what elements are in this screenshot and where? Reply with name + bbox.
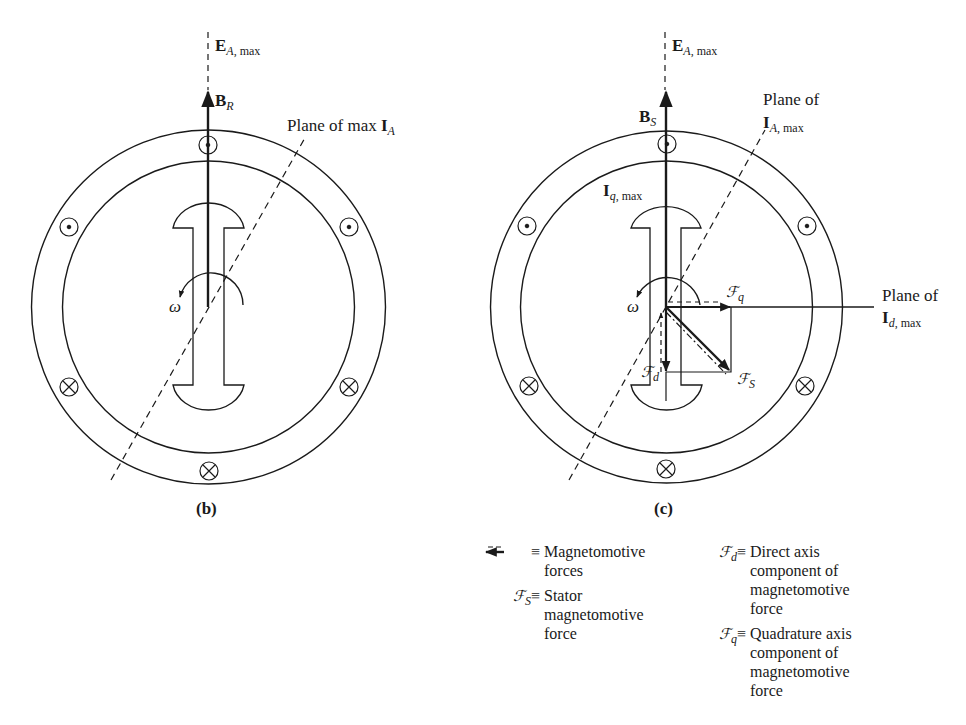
legend-text: magnetomotive xyxy=(750,580,850,599)
legend-text: component of xyxy=(750,643,852,662)
plane-max-ia-label-b: Plane of max IA xyxy=(287,117,395,140)
legend-text: Stator xyxy=(544,586,644,605)
fd-symbol: ℱ xyxy=(719,543,731,561)
conductor-cross-right-c xyxy=(796,377,814,395)
legend-text: Quadrature axis xyxy=(750,624,852,643)
conductor-cross-left-b xyxy=(60,378,78,396)
diagram-b xyxy=(32,32,386,484)
legend-left: ≡ Magnetomotive forces ℱS≡ Stator magnet… xyxy=(486,542,686,649)
fs-dashed xyxy=(666,312,726,374)
ea-max-label-b: EA, max xyxy=(215,37,260,60)
fs-label: ℱS xyxy=(737,370,755,393)
plane-id-max-label-c: Plane of Id, max xyxy=(882,285,938,334)
conductor-cross-bottom-b xyxy=(200,462,218,480)
fq-label: ℱq xyxy=(726,283,744,306)
legend-text: magnetomotive xyxy=(750,662,852,681)
iq-max-label: Iq, max xyxy=(603,182,642,205)
legend-text: Direct axis xyxy=(750,542,850,561)
fs-arrow xyxy=(666,307,729,370)
legend-item-fq: ℱq≡ Quadrature axis component of magneto… xyxy=(692,624,952,700)
fq-symbol: ℱ xyxy=(719,625,731,643)
ea-max-label-c: EA, max xyxy=(672,37,717,60)
legend-text: Magnetomotive xyxy=(544,542,645,561)
omega-arc-b xyxy=(180,273,243,305)
omega-label-b: ω xyxy=(169,298,181,316)
legend-text: magnetomotive xyxy=(544,605,644,624)
plane-ia-max-label-c: Plane of IA, max xyxy=(763,88,819,140)
fs-symbol: ℱ xyxy=(513,587,525,605)
legend-item-fs: ℱS≡ Stator magnetomotive force xyxy=(486,586,686,643)
legend-text: component of xyxy=(750,561,850,580)
legend-text: force xyxy=(750,599,850,618)
conductor-cross-left-c xyxy=(520,377,538,395)
omega-arc-c xyxy=(637,278,700,305)
br-label: BR xyxy=(215,92,234,115)
omega-label-c: ω xyxy=(627,298,639,316)
fd-label: ℱd xyxy=(641,363,659,386)
legend-item-fd: ℱd≡ Direct axis component of magnetomoti… xyxy=(692,542,952,618)
legend-right: ℱd≡ Direct axis component of magnetomoti… xyxy=(692,542,952,706)
conductor-dot-left-c xyxy=(518,217,536,235)
conductor-dot-right-b xyxy=(340,218,358,236)
equiv-symbol: ≡ xyxy=(531,543,540,560)
caption-c: (c) xyxy=(654,500,673,518)
legend-text: forces xyxy=(544,561,645,580)
legend-text: force xyxy=(544,624,644,643)
conductor-cross-bottom-c xyxy=(657,460,675,478)
caption-b: (b) xyxy=(196,500,217,518)
conductor-dot-right-c xyxy=(798,217,816,235)
legend-item-mmf: ≡ Magnetomotive forces xyxy=(486,542,686,580)
conductor-cross-right-b xyxy=(340,378,358,396)
conductor-dot-left-b xyxy=(60,218,78,236)
bs-label: BS xyxy=(639,108,656,131)
legend-text: force xyxy=(750,681,852,700)
